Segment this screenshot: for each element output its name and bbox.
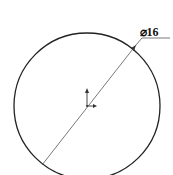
- sketch-canvas[interactable]: ⌀16: [0, 0, 173, 175]
- diameter-dimension-line[interactable]: [42, 45, 136, 165]
- dimension-leader: [136, 38, 170, 45]
- origin-icon: [85, 88, 97, 108]
- diameter-dimension-label[interactable]: ⌀16: [140, 25, 159, 39]
